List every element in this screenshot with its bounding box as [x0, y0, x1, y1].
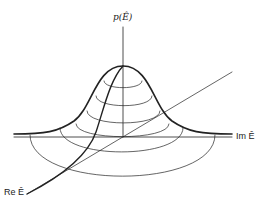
- im-axis-label: Im Ê: [236, 131, 255, 141]
- gaussian-surface-diagram: [0, 0, 264, 207]
- vertical-axis-label: p(Ê): [113, 12, 132, 22]
- base-ellipse-outer: [30, 135, 215, 176]
- meridian-curve: [27, 66, 123, 194]
- contour-ring-4: [76, 124, 169, 137]
- base-ellipse-mid: [60, 128, 183, 152]
- re-axis-label: Re Ê: [4, 187, 24, 197]
- vertical-axis-label-text: p(Ê): [113, 12, 132, 22]
